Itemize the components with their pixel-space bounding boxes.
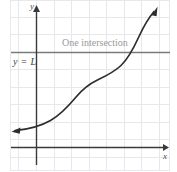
x-axis-label: x xyxy=(163,152,167,161)
level-line-label: y = L xyxy=(13,56,36,67)
y-axis-label: y xyxy=(30,2,34,11)
graph-canvas xyxy=(0,0,177,172)
graph-figure: y x y = L One intersection xyxy=(0,0,177,172)
one-intersection-annotation: One intersection xyxy=(62,37,128,48)
